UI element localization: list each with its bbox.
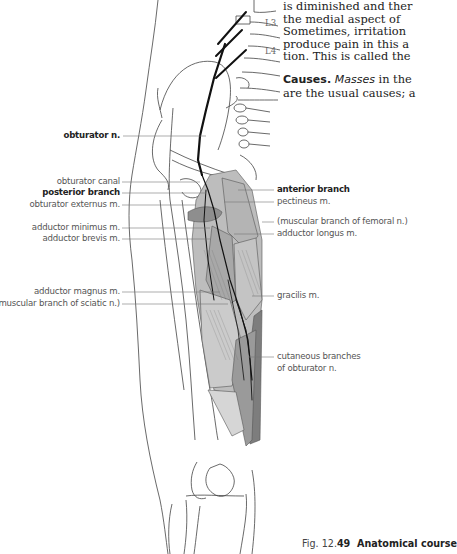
vertebra-label-l3: L3: [265, 18, 276, 28]
label-muscular-branch-sciatic: (muscular branch of sciatic n.): [0, 298, 120, 308]
obturator-foramen: [180, 179, 201, 198]
caption-number: 49: [337, 538, 350, 549]
label-cutaneous-branches: cutaneous branches: [277, 351, 361, 361]
causes-italic: Masses: [335, 73, 375, 86]
causes-heading: Causes.: [283, 73, 331, 86]
label-obturator-nerve: obturator n.: [63, 130, 120, 140]
body-text-column: is diminished and ther the medial aspect…: [283, 0, 423, 99]
figure-caption: Fig. 12.49 Anatomical course: [302, 538, 457, 549]
label-posterior-branch: posterior branch: [42, 187, 120, 197]
body-text-line: Sometimes, irritation: [283, 25, 423, 38]
obturator-nerve: [198, 44, 225, 175]
label-anterior-branch: anterior branch: [277, 184, 350, 194]
body-text-line: tion. This is called the: [283, 50, 423, 63]
label-adductor-longus: adductor longus m.: [277, 228, 357, 238]
label-pectineus: pectineus m.: [277, 196, 330, 206]
label-obturator-canal: obturator canal: [57, 176, 120, 186]
body-text-line: is diminished and ther: [283, 0, 423, 13]
caption-title: Anatomical course: [350, 538, 457, 549]
thigh-outer-outline: [129, 0, 168, 554]
causes-rest: in the: [375, 72, 412, 86]
label-cutaneous-branches-line2: of obturator n.: [277, 363, 336, 373]
caption-prefix: Fig. 12.: [302, 538, 337, 549]
label-gracilis: gracilis m.: [277, 290, 319, 300]
label-adductor-magnus: adductor magnus m.: [34, 286, 120, 296]
causes-paragraph: Causes. Masses in the: [283, 73, 423, 87]
body-text-line: are the usual causes; a: [283, 87, 423, 100]
label-obturator-externus: obturator externus m.: [30, 199, 121, 209]
vertebra-label-l4: L4: [265, 46, 276, 56]
label-adductor-brevis: adductor brevis m.: [42, 233, 120, 243]
label-muscular-branch-femoral: (muscular branch of femoral n.): [277, 216, 408, 226]
label-adductor-minimus: adductor minimus m.: [32, 222, 120, 232]
patella: [206, 464, 234, 496]
